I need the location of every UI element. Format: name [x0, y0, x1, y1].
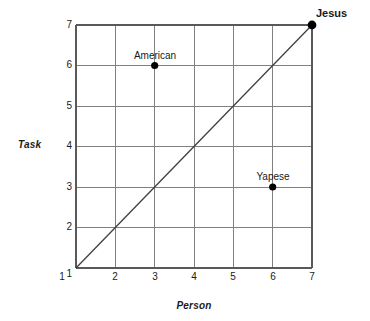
data-label-yapese: Yapese — [243, 171, 303, 182]
y-tick-5: 5 — [56, 100, 72, 111]
x-tick-3: 3 — [147, 271, 163, 282]
scatter-chart: 7 6 5 4 3 2 1 1 2 3 4 5 6 7 Task Person … — [0, 0, 370, 321]
x-axis-title: Person — [76, 300, 312, 311]
y-tick-2: 2 — [56, 221, 72, 232]
x-tick-2: 2 — [107, 271, 123, 282]
x-tick-5: 5 — [225, 271, 241, 282]
data-point-yapese — [269, 183, 276, 190]
data-point-american — [151, 62, 158, 69]
x-tick-6: 6 — [265, 271, 281, 282]
y-tick-6: 6 — [56, 59, 72, 70]
data-label-american: American — [125, 50, 185, 61]
x-tick-7: 7 — [304, 271, 320, 282]
y-tick-3: 3 — [56, 181, 72, 192]
x-tick-1: 1 — [54, 271, 70, 282]
data-point-jesus — [308, 21, 317, 30]
y-axis-title: Task — [18, 139, 41, 150]
y-tick-4: 4 — [56, 140, 72, 151]
data-label-jesus: Jesus — [316, 7, 347, 19]
y-tick-7: 7 — [56, 19, 72, 30]
x-tick-4: 4 — [186, 271, 202, 282]
